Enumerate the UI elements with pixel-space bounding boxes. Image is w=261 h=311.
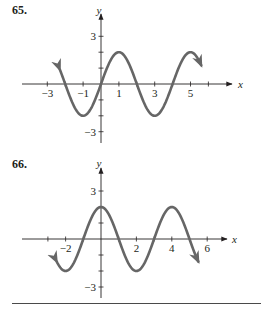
x-tick-label: −1 [77, 87, 89, 99]
y-tick-label: 3 [91, 30, 97, 42]
chart-66: −22463−3xy [22, 157, 237, 298]
x-tick-label: 5 [188, 87, 194, 99]
y-axis-label: y [96, 157, 102, 169]
x-axis-label: x [237, 78, 243, 90]
divider-rule [12, 303, 261, 304]
x-tick-label: 2 [134, 242, 140, 254]
y-tick-label: 3 [91, 185, 97, 197]
y-axis-label: y [96, 4, 102, 16]
x-tick-label: −3 [41, 87, 53, 99]
x-tick-label: 6 [204, 242, 210, 254]
x-axis-label: x [231, 233, 237, 245]
x-tick-label: −2 [60, 242, 72, 254]
chart-65: −3−11353−3xy [22, 4, 243, 143]
x-tick-label: 1 [116, 87, 122, 99]
y-tick-label: −3 [84, 126, 96, 138]
y-tick-label: −3 [84, 281, 96, 293]
plots-canvas: −3−11353−3xy −22463−3xy [0, 0, 261, 311]
x-tick-label: 4 [169, 242, 175, 254]
x-tick-label: 3 [152, 87, 158, 99]
